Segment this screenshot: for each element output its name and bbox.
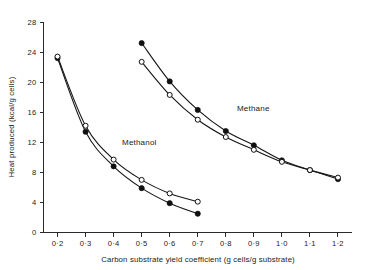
y-tick-label: 16	[28, 108, 37, 117]
chart-figure: 0481216202428 0·20·30·40·50·60·70·80·91·…	[0, 0, 372, 270]
data-point-open	[223, 135, 228, 140]
data-point-open	[335, 175, 340, 180]
y-tick-label: 12	[28, 138, 37, 147]
y-tick-label: 0	[32, 228, 36, 237]
x-tick-label: 0·4	[108, 239, 120, 248]
x-tick-label: 0·9	[248, 239, 260, 248]
data-point-open	[195, 199, 200, 204]
x-tick-label: 0·5	[136, 239, 148, 248]
chart-series-markers	[55, 40, 341, 216]
x-tick-label: 0·7	[192, 239, 204, 248]
y-axis-ticks: 0481216202428	[28, 18, 44, 238]
x-tick-label: 0·8	[220, 239, 232, 248]
series-line	[58, 57, 198, 202]
data-point-open	[83, 123, 88, 128]
data-point-filled	[111, 164, 116, 169]
chart-series-curves	[58, 43, 338, 214]
data-point-open	[307, 168, 312, 173]
series-line	[58, 58, 198, 214]
x-tick-label: 0·6	[164, 239, 176, 248]
y-tick-label: 28	[28, 18, 37, 27]
x-tick-label: 1·2	[332, 239, 344, 248]
data-point-filled	[167, 201, 172, 206]
data-point-open	[55, 54, 60, 59]
data-point-filled	[223, 128, 228, 133]
data-point-filled	[167, 79, 172, 84]
data-point-filled	[139, 40, 144, 45]
y-tick-label: 4	[32, 198, 36, 207]
x-tick-label: 0·2	[52, 239, 64, 248]
x-tick-label: 1·0	[276, 239, 288, 248]
y-tick-label: 20	[28, 78, 37, 87]
data-point-open	[251, 147, 256, 152]
data-point-open	[139, 59, 144, 64]
x-tick-label: 0·3	[80, 239, 92, 248]
y-tick-label: 24	[28, 48, 37, 57]
x-axis-title: Carbon substrate yield coefficient (g ce…	[101, 255, 295, 264]
data-point-open	[279, 159, 284, 164]
series-annotation-label: Methanol	[122, 138, 157, 147]
series-annotation-label: Methane	[237, 104, 270, 113]
y-tick-label: 8	[32, 168, 36, 177]
data-point-open	[195, 117, 200, 122]
chart-canvas: 0481216202428 0·20·30·40·50·60·70·80·91·…	[0, 0, 372, 270]
data-point-filled	[139, 186, 144, 191]
data-point-filled	[83, 129, 88, 134]
x-axis-ticks: 0·20·30·40·50·60·70·80·91·01·11·2	[52, 233, 344, 248]
y-axis-title: Heat produced (kcal/g cells)	[7, 76, 16, 177]
data-point-open	[167, 92, 172, 97]
x-tick-label: 1·1	[304, 239, 316, 248]
data-point-open	[111, 157, 116, 162]
data-point-open	[167, 191, 172, 196]
data-point-filled	[195, 211, 200, 216]
data-point-filled	[195, 107, 200, 112]
data-point-open	[139, 177, 144, 182]
